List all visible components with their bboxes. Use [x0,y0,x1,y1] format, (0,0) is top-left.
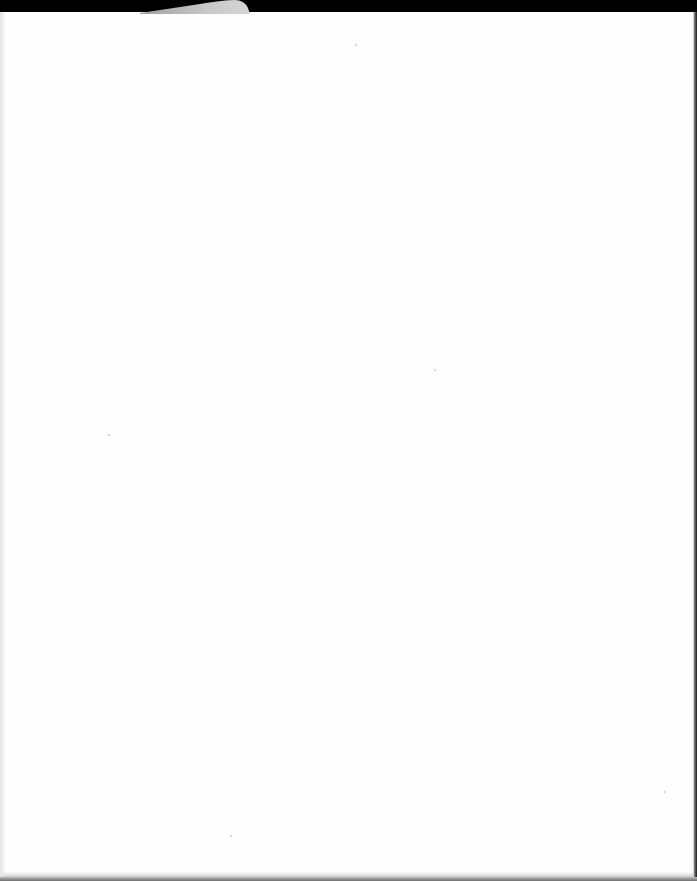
scanned-document [0,0,697,881]
scan-speck [230,835,232,837]
scan-speck [434,369,436,371]
scan-speck [664,791,666,793]
page-left-shadow [0,12,6,878]
page-bottom-edge [0,877,697,881]
folded-corner-curl [140,0,250,14]
scan-speck [108,434,110,436]
blank-page [0,12,694,878]
scan-speck [355,44,357,46]
